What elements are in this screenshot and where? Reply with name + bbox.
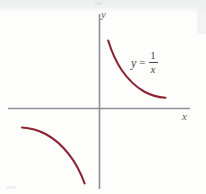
equation-denominator: x <box>150 63 157 75</box>
y-axis-label: y <box>101 9 106 20</box>
curve-equation-label: y = 1 x <box>131 50 158 75</box>
curve-branch-negative <box>22 128 85 184</box>
equation-fraction: 1 x <box>149 50 158 75</box>
equation-equals-sign: = <box>139 57 145 68</box>
figure-hyperbola-y-equals-one-over-x: y x y = 1 x <box>0 0 206 194</box>
equation-lhs: y <box>131 57 136 69</box>
coordinate-plot <box>0 0 206 194</box>
equation-numerator: 1 <box>149 50 157 62</box>
x-axis-label: x <box>182 111 187 122</box>
